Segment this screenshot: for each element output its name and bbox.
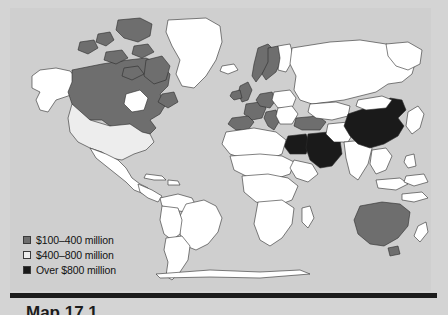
legend-item-400-800: $400–800 million — [16, 248, 116, 261]
legend-label-100-400: $100–400 million — [36, 234, 114, 246]
region-tasmania — [388, 246, 400, 256]
swatch-100-400 — [23, 236, 31, 244]
figure-caption: Map 17.1 — [26, 303, 98, 315]
region-greenland — [166, 18, 222, 88]
region-canada-arctic-1 — [116, 18, 152, 42]
region-indonesia-1 — [376, 178, 408, 190]
region-korea-japan — [406, 106, 424, 134]
region-egypt — [284, 134, 310, 154]
world-map-panel: $100–400 million $400–800 million Over $… — [10, 8, 431, 291]
region-spain-portugal — [228, 116, 254, 130]
region-philippines — [404, 154, 416, 168]
region-southern-africa — [254, 200, 294, 246]
legend-item-100-400: $100–400 million — [16, 233, 116, 246]
region-australia — [354, 202, 410, 246]
region-canada-arctic-5 — [132, 44, 154, 58]
region-new-zealand — [414, 222, 428, 242]
map-legend: $100–400 million $400–800 million Over $… — [16, 233, 116, 276]
region-madagascar — [302, 206, 314, 228]
region-central-america — [138, 184, 162, 202]
region-canada-arctic-2 — [96, 32, 114, 46]
region-png — [402, 192, 428, 202]
figure-divider-rule — [10, 293, 437, 298]
region-poland-east-europe — [272, 90, 296, 108]
region-cuba — [144, 174, 166, 180]
region-canada-arctic-3 — [78, 40, 98, 54]
legend-item-over-800: Over $800 million — [16, 263, 116, 276]
region-ireland — [230, 90, 242, 100]
swatch-over-800 — [23, 266, 31, 274]
region-balkans — [276, 106, 298, 124]
region-hispaniola — [168, 180, 180, 185]
swatch-400-800 — [23, 251, 31, 259]
region-southeast-asia — [370, 148, 392, 174]
legend-label-400-800: $400–800 million — [36, 249, 114, 261]
region-iceland — [220, 64, 238, 74]
figure-container: $100–400 million $400–800 million Over $… — [0, 0, 448, 315]
legend-label-over-800: Over $800 million — [36, 264, 116, 276]
region-peru-bolivia — [160, 206, 182, 240]
